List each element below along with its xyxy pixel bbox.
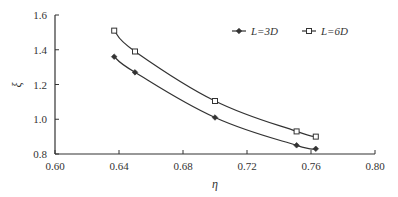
legend-item: L=6D (302, 25, 348, 37)
y-tick-label: 1.0 (33, 113, 47, 125)
legend-item: L=3D (232, 25, 278, 37)
legend-label: L=6D (320, 25, 348, 37)
diamond-marker-icon (132, 70, 138, 76)
x-tick-label: 0.76 (301, 160, 321, 172)
legend-label: L=3D (250, 25, 278, 37)
x-axis-label: η (212, 177, 218, 191)
series-l6d (112, 28, 319, 139)
line-chart: 0.600.640.680.720.760.800.81.01.21.41.6 … (0, 0, 398, 197)
square-marker-icon (213, 99, 218, 104)
y-axis-label: ξ (10, 82, 24, 88)
square-marker-icon (294, 129, 299, 134)
legend: L=3DL=6D (232, 25, 348, 37)
square-marker-icon (313, 134, 318, 139)
diamond-marker-icon (294, 143, 300, 149)
legend-diamond-icon (236, 28, 242, 34)
diamond-marker-icon (212, 115, 218, 121)
square-marker-icon (133, 49, 138, 54)
y-tick-label: 1.6 (33, 9, 47, 21)
legend-square-icon (307, 29, 312, 34)
square-marker-icon (112, 28, 117, 33)
y-tick-label: 1.2 (33, 79, 47, 91)
diamond-marker-icon (313, 146, 319, 152)
series-group (111, 28, 318, 151)
x-tick-label: 0.72 (237, 160, 256, 172)
x-tick-label: 0.80 (365, 160, 385, 172)
x-tick-label: 0.68 (173, 160, 193, 172)
x-tick-label: 0.60 (45, 160, 65, 172)
x-tick-label: 0.64 (109, 160, 129, 172)
y-tick-label: 1.4 (33, 44, 47, 56)
y-tick-label: 0.8 (33, 148, 47, 160)
